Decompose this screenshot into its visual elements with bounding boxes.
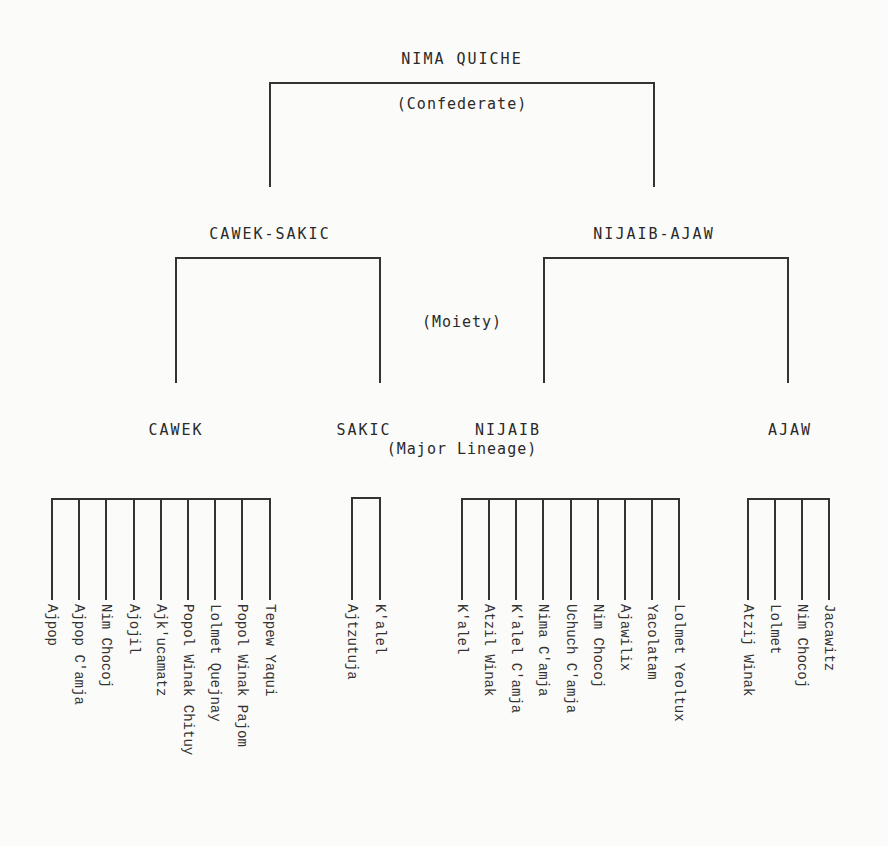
sublineage-cawek-6: Lolmet Quejnay [208, 604, 222, 722]
sublineage-nijaib-7: Yacolatam [645, 604, 659, 680]
lineage-label-ajaw: AJAW [768, 421, 812, 439]
sublineage-nijaib-6: Ajawilix [618, 604, 632, 671]
lineage-bracket-ajaw [748, 499, 829, 600]
lineage-level-label: (Major Lineage) [387, 440, 537, 458]
moiety-level-label: (Moiety) [422, 313, 502, 331]
sublineage-cawek-1: Ajpop C'amja [72, 604, 86, 705]
tree-connectors [0, 0, 888, 846]
sublineage-nijaib-3: Nima C'amja [536, 604, 550, 696]
root-label: NIMA QUICHE [401, 50, 522, 68]
lineage-bracket-sakic [352, 498, 380, 600]
sublineage-cawek-2: Nim Chocoj [99, 604, 113, 688]
sublineage-nijaib-4: Uchuch C'amja [564, 604, 578, 713]
sublineage-nijaib-1: Atzil Winak [482, 604, 496, 696]
lineage-label-nijaib: NIJAIB [475, 421, 541, 439]
sublineage-sakic-0: Ajtzutuja [345, 604, 359, 680]
moiety-bracket-cawek-sakic [176, 258, 380, 383]
sublineage-cawek-0: Ajpop [45, 604, 59, 646]
sublineage-nijaib-5: Nim Chocoj [591, 604, 605, 688]
sublineage-ajaw-3: Jacawitz [822, 604, 836, 671]
sublineage-sakic-1: K'alel [373, 604, 387, 654]
sublineage-ajaw-1: Lolmet [768, 604, 782, 654]
moiety-label-nijaib-ajaw: NIJAIB-AJAW [593, 225, 714, 243]
confederate-level-label: (Confederate) [397, 95, 527, 113]
sublineage-nijaib-2: K'alel C'amja [509, 604, 523, 713]
lineage-bracket-nijaib [462, 499, 679, 600]
lineage-bracket-cawek [52, 499, 270, 600]
moiety-bracket-nijaib-ajaw [544, 258, 788, 383]
sublineage-cawek-4: Ajk'ucamatz [154, 604, 168, 696]
sublineage-nijaib-0: K'alel [455, 604, 469, 654]
moiety-label-cawek-sakic: CAWEK-SAKIC [209, 225, 330, 243]
sublineage-ajaw-0: Atzij Winak [741, 604, 755, 696]
sublineage-ajaw-2: Nim Chocoj [795, 604, 809, 688]
lineage-label-cawek: CAWEK [148, 421, 203, 439]
sublineage-nijaib-8: Lolmet Yeoltux [672, 604, 686, 722]
sublineage-cawek-7: Popol Winak Pajom [235, 604, 249, 747]
sublineage-cawek-8: Tepew Yaqui [263, 604, 277, 696]
lineage-label-sakic: SAKIC [336, 421, 391, 439]
sublineage-cawek-5: Popol Winak Chituy [181, 604, 195, 755]
sublineage-cawek-3: Ajojil [127, 604, 141, 654]
